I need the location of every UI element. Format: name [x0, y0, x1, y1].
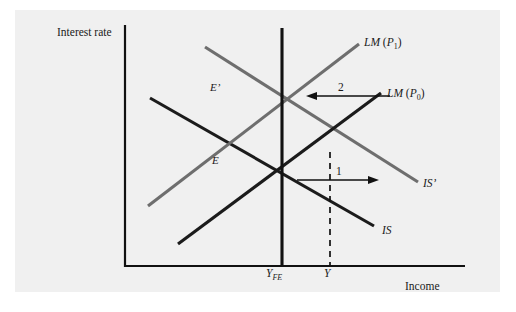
- lm-p0-paren-close: ): [421, 87, 425, 99]
- equilibrium-label-e-prime: E’: [210, 82, 220, 93]
- curve-label-lm-p0: LM (P0): [387, 88, 425, 102]
- shift-arrow-1-label: 1: [336, 166, 342, 178]
- lm-p1-base: LM: [364, 36, 380, 48]
- lm-p1-paren-close: ): [398, 36, 402, 48]
- tick-label-y: Y: [324, 268, 330, 280]
- curve-lm-p0: [178, 93, 381, 244]
- y-fe-subscript: FE: [272, 273, 282, 282]
- shift-arrow-2: [306, 92, 390, 100]
- x-axis-label: Income: [405, 281, 439, 293]
- lm-p1-symbol: P: [387, 36, 394, 48]
- curve-label-lm-p1: LM (P1): [364, 37, 402, 51]
- is-lm-diagram: [0, 0, 516, 312]
- equilibrium-label-e: E: [212, 155, 219, 166]
- lm-p0-base: LM: [387, 87, 403, 99]
- curve-label-is-prime: IS’: [423, 178, 436, 190]
- lm-p0-symbol: P: [410, 87, 417, 99]
- tick-label-y-fe: YFE: [266, 268, 282, 282]
- curve-label-is: IS: [382, 225, 392, 237]
- y-axis-label: Interest rate: [57, 27, 112, 39]
- shift-arrow-2-label: 2: [338, 82, 344, 94]
- curve-is-prime: [205, 47, 418, 182]
